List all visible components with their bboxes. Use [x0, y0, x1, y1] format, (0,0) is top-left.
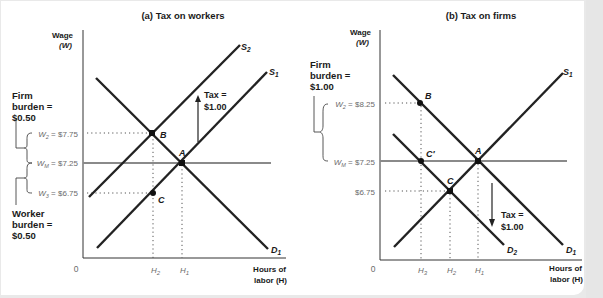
tick-w2: W2 = $7.75 [38, 130, 78, 140]
arrow-down-icon [489, 219, 495, 227]
point-b-marker [149, 130, 155, 136]
tick-wm: WM = $7.25 [334, 158, 376, 168]
tick-h3: H3 [418, 266, 428, 276]
connector-firm [314, 96, 320, 132]
arrow-up-icon [195, 95, 201, 102]
x-axis-label-line1: Hours of [549, 264, 582, 273]
point-b-label: B [160, 130, 167, 140]
firm-burden-line3: $0.50 [12, 112, 36, 123]
brace-worker [24, 163, 32, 193]
firm-burden-line2: burden = [12, 101, 53, 112]
tick-wm: WM = $7.25 [37, 159, 79, 169]
y-axis-label-line1: Wage [52, 31, 74, 40]
label-d1: D1 [271, 245, 282, 256]
x-axis-label-line1: Hours of [253, 265, 286, 274]
y-axis-label-line2: (W) [59, 41, 72, 50]
panel-a-title: (a) Tax on workers [141, 10, 224, 21]
firm-burden-line1: Firm [12, 90, 33, 101]
worker-burden-line1: Worker [12, 208, 45, 219]
panel-b-title: (b) Tax on firms [446, 10, 517, 21]
point-a-marker [179, 160, 185, 166]
y-axis-label-line2: (W) [356, 38, 369, 47]
point-c-label: C [158, 195, 165, 205]
point-b-label: B [425, 91, 432, 101]
point-cprime-label: C′ [426, 149, 435, 159]
tax-label-line2: $1.00 [204, 102, 227, 112]
x-axis-label-line2: labor (H) [254, 276, 287, 285]
label-d2: D2 [507, 245, 518, 256]
y-axis-label-line1: Wage [350, 28, 372, 37]
tax-label-line1: Tax = [204, 90, 227, 100]
label-d1: D1 [566, 245, 577, 256]
brace-firm [320, 104, 328, 161]
x-axis-label-line2: labor (H) [550, 275, 583, 284]
tick-h2: H2 [151, 266, 161, 276]
label-s2: S2 [241, 42, 251, 53]
tick-w3: W3 = $6.75 [38, 189, 78, 199]
point-a-marker [475, 158, 481, 164]
firm-burden-line3: $1.00 [310, 81, 334, 92]
tax-incidence-figure: (a) Tax on workers Wage (W) Hours of lab… [0, 0, 603, 298]
tick-675: $6.75 [355, 188, 376, 197]
point-cprime-marker [418, 158, 424, 164]
point-c-marker [447, 188, 453, 194]
firm-burden-line1: Firm [310, 59, 331, 70]
supply-curve-s2 [89, 45, 240, 197]
origin-label: 0 [371, 264, 376, 274]
worker-burden-line2: burden = [12, 219, 53, 230]
tick-w2: W2 = $8.25 [335, 100, 375, 110]
tick-h1: H1 [180, 266, 189, 276]
panel-b: (b) Tax on firms Wage (W) Hours of labor… [310, 10, 583, 284]
brace-firm [24, 133, 32, 163]
tax-label-line2: $1.00 [501, 222, 524, 232]
panel-a: (a) Tax on workers Wage (W) Hours of lab… [12, 10, 287, 285]
tax-label-line1: Tax = [501, 210, 524, 220]
origin-label: 0 [74, 264, 79, 274]
point-a-label: A [474, 146, 482, 156]
label-s1: S1 [269, 67, 279, 78]
point-a-label: A [178, 148, 186, 158]
worker-burden-line3: $0.50 [12, 230, 36, 241]
connector-worker [16, 178, 24, 205]
label-s1: S1 [563, 67, 573, 78]
tick-h1: H1 [475, 266, 484, 276]
firm-burden-line2: burden = [310, 70, 351, 81]
tick-h2: H2 [447, 266, 457, 276]
point-b-marker [417, 100, 423, 106]
point-c-marker [150, 190, 156, 196]
point-c-label: C [447, 176, 454, 186]
